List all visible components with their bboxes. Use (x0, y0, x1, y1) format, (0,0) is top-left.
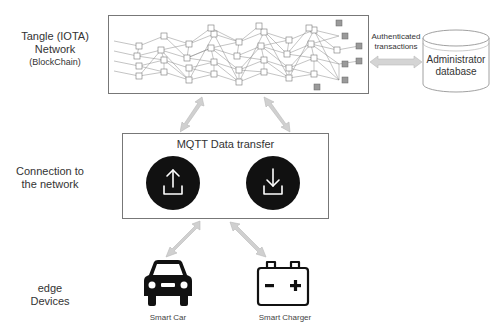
layer-label-network: Tangle (IOTA) Network (BlockChain) (0, 30, 110, 69)
arrow-car-icon (166, 221, 200, 257)
battery-icon (255, 259, 311, 307)
upload-icon (146, 156, 200, 210)
link-label-line2: transactions (368, 42, 424, 52)
car-icon (140, 258, 196, 308)
layer-network-line2: Network (0, 43, 110, 56)
mqtt-title: MQTT Data transfer (123, 138, 328, 150)
layer-network-line3: (BlockChain) (0, 56, 110, 69)
smart-car-label: Smart Car (128, 313, 208, 322)
administrator-database: Administrator database (420, 28, 492, 94)
layer-connection-line2: the network (0, 178, 100, 191)
smart-charger-label: Smart Charger (243, 313, 327, 322)
tangle-graph-icon (109, 16, 368, 93)
layer-label-edge: edge Devices (0, 282, 100, 308)
link-label: Authenticated transactions (368, 32, 424, 52)
mqtt-box: MQTT Data transfer (122, 133, 329, 219)
smart-charger-device (255, 259, 311, 307)
download-button[interactable] (246, 156, 300, 210)
network-mqtt-arrows (180, 94, 320, 134)
layer-network-line1: Tangle (IOTA) (0, 30, 110, 43)
layer-connection-line1: Connection to (0, 165, 100, 178)
layer-label-connection: Connection to the network (0, 165, 100, 191)
layer-edge-line1: edge (0, 282, 100, 295)
link-label-line1: Authenticated (368, 32, 424, 42)
arrow-right-icon (264, 97, 290, 132)
upload-button[interactable] (146, 156, 200, 210)
database-label-line2: database (420, 66, 492, 78)
arrow-charger-icon (230, 222, 266, 257)
mqtt-device-arrows (160, 219, 300, 261)
download-icon (246, 156, 300, 210)
database-label-line1: Administrator (420, 54, 492, 66)
layer-edge-line2: Devices (0, 295, 100, 308)
tangle-network-box (108, 15, 369, 94)
smart-car-device (140, 258, 196, 308)
bidirectional-arrow-icon (368, 55, 424, 69)
arrow-left-icon (180, 97, 204, 132)
database-label: Administrator database (420, 54, 492, 78)
